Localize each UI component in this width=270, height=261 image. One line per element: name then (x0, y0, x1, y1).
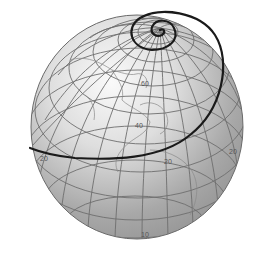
latitude-label-20-center: 20 (164, 158, 172, 165)
latitude-label-60: 60 (141, 80, 149, 87)
latitude-label-20-right: 20 (229, 148, 237, 155)
latitude-label-20-left: 20 (40, 155, 48, 162)
latitude-label-40: 40 (135, 122, 143, 129)
globe-figure: 60 40 20 20 20 10 (0, 0, 270, 261)
latitude-label-10-bottom: 10 (141, 231, 149, 238)
globe-svg: 60 40 20 20 20 10 (0, 0, 270, 261)
